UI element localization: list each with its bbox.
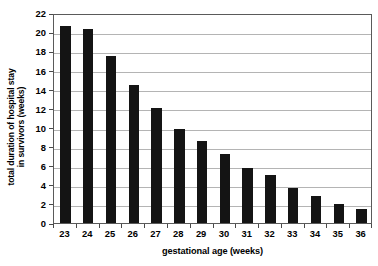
y-axis-tick-label: 2 [41, 200, 49, 209]
y-axis-tick: 10 [36, 123, 53, 135]
y-axis-tick-label: 10 [36, 124, 49, 133]
bars-layer [54, 15, 371, 223]
y-axis-tick-label: 12 [36, 105, 49, 114]
bar [129, 85, 139, 223]
x-axis-title: gestational age (weeks) [53, 246, 372, 256]
y-axis-ticks: 0246810121416182022 [0, 14, 53, 225]
bar [220, 154, 230, 223]
x-axis-tick-mark [349, 224, 350, 228]
bar [60, 26, 70, 223]
bar [83, 29, 93, 223]
x-axis-tick-mark [304, 224, 305, 228]
y-axis-tick-label: 14 [36, 86, 49, 95]
bar [265, 175, 275, 223]
x-axis-tick-mark [258, 224, 259, 228]
bar [174, 129, 184, 223]
x-axis-ticks: 2324252627282930313233343536 [53, 224, 372, 246]
bar-chart-figure: total duration of hospital stay in survi… [0, 0, 378, 266]
y-axis-tick: 12 [36, 103, 53, 115]
y-axis-tick-label: 4 [41, 181, 49, 190]
x-axis-tick-mark [53, 224, 54, 228]
y-axis-tick-label: 22 [36, 9, 49, 18]
x-axis-tick-mark [144, 224, 145, 228]
y-axis-tick-label: 6 [41, 162, 49, 171]
bar [151, 108, 161, 223]
bar [356, 209, 366, 223]
y-axis-tick: 14 [36, 84, 53, 96]
y-axis-tick: 20 [36, 27, 53, 39]
y-axis-tick: 6 [41, 161, 53, 173]
y-axis-tick-label: 0 [41, 219, 49, 228]
bar [334, 204, 344, 223]
x-axis-tick-mark [190, 224, 191, 228]
y-axis-tick-label: 16 [36, 67, 49, 76]
y-axis-tick: 2 [41, 199, 53, 211]
y-axis-tick: 18 [36, 46, 53, 58]
bar [106, 56, 116, 223]
y-axis-tick: 16 [36, 65, 53, 77]
x-axis-tick-mark [99, 224, 100, 228]
y-axis-tick-label: 18 [36, 47, 49, 56]
y-axis-tick: 4 [41, 180, 53, 192]
x-axis-tick-mark [213, 224, 214, 228]
x-axis-tick-mark [167, 224, 168, 228]
bar [311, 196, 321, 223]
bar [197, 141, 207, 223]
y-axis-tick: 22 [36, 8, 53, 20]
x-axis-tick-mark [76, 224, 77, 228]
x-axis-tick-mark [326, 224, 327, 228]
bar [288, 188, 298, 223]
bar [242, 168, 252, 223]
x-axis-tick-mark [235, 224, 236, 228]
x-axis-tick-label: 36 [348, 229, 374, 238]
y-axis-tick-label: 8 [41, 143, 49, 152]
y-axis-tick-label: 20 [36, 28, 49, 37]
x-axis-tick-mark [121, 224, 122, 228]
x-axis-tick-mark [371, 224, 372, 228]
x-axis-tick-mark [281, 224, 282, 228]
plot-area [53, 14, 372, 224]
y-axis-tick: 8 [41, 142, 53, 154]
